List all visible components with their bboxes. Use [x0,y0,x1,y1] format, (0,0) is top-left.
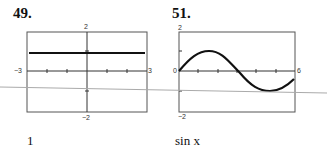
tick-label: 2 [178,24,182,31]
graph-49 [27,32,147,112]
answer-51: sin x [175,133,200,149]
tick-label: −2 [178,113,186,120]
graphs [0,0,327,149]
tick-label: 0 [173,67,177,74]
tick-label: −2 [82,114,90,121]
tick-label: 6 [297,67,301,74]
answer-49: 1 [27,133,34,149]
tick-label: −3 [14,67,22,74]
tick-label: 2 [84,23,88,30]
graph-51 [179,32,295,112]
tick-label: 3 [148,67,152,74]
